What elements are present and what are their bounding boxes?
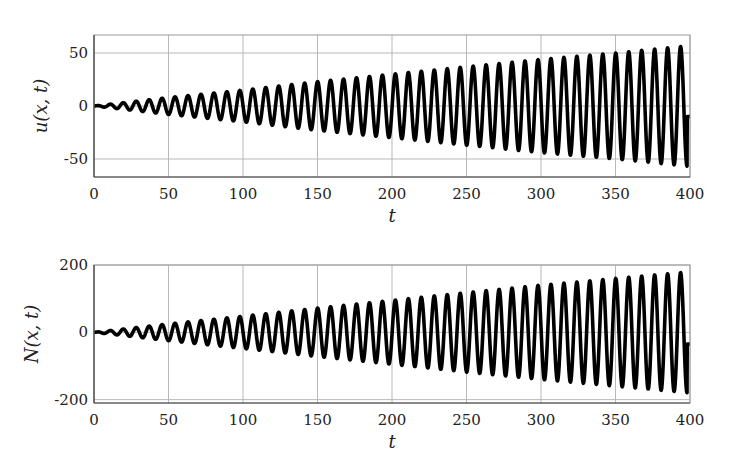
x-tick-label: 250: [452, 411, 481, 429]
x-tick-label: 150: [303, 411, 332, 429]
x-tick-label: 0: [89, 411, 99, 429]
x-tick-label: 200: [378, 185, 407, 203]
y-tick-label: 50: [69, 44, 88, 62]
x-tick-label: 50: [159, 185, 178, 203]
x-axis-label: t: [388, 431, 396, 452]
y-axis-label: N(x, t): [21, 305, 42, 365]
x-tick-label: 200: [378, 411, 407, 429]
y-tick-label: 0: [78, 323, 88, 341]
plot-u: 050100150200250300350400-50050tu(x, t): [30, 35, 704, 226]
figure: 050100150200250300350400-50050tu(x, t) 0…: [0, 0, 730, 474]
x-tick-label: 350: [601, 185, 630, 203]
y-axis-label: u(x, t): [30, 79, 51, 133]
y-tick-label: -50: [64, 150, 88, 168]
x-tick-label: 400: [676, 185, 705, 203]
x-tick-label: 400: [676, 411, 705, 429]
x-tick-label: 350: [601, 411, 630, 429]
y-tick-label: 200: [59, 256, 88, 274]
y-tick-label: 0: [78, 97, 88, 115]
x-tick-label: 250: [452, 185, 481, 203]
plot-n: 050100150200250300350400-2000200tN(x, t): [21, 256, 704, 452]
y-tick-label: -200: [54, 391, 88, 409]
x-tick-label: 300: [527, 185, 556, 203]
x-tick-label: 100: [229, 185, 258, 203]
x-tick-label: 150: [303, 185, 332, 203]
x-tick-label: 0: [89, 185, 99, 203]
x-tick-label: 300: [527, 411, 556, 429]
x-tick-label: 100: [229, 411, 258, 429]
x-axis-label: t: [388, 205, 396, 226]
x-tick-label: 50: [159, 411, 178, 429]
